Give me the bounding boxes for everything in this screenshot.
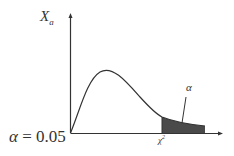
significance-level: α = 0.05	[9, 127, 66, 147]
chi-superscript: 2	[162, 134, 165, 140]
significance-value: 0.05	[36, 127, 66, 146]
significance-equals: =	[18, 127, 36, 146]
critical-value-label: χ2	[158, 134, 165, 145]
y-axis-label-subscript: a	[49, 17, 54, 27]
tail-alpha-label: α	[186, 81, 192, 93]
significance-symbol: α	[9, 127, 18, 146]
y-axis-label: Xa	[40, 8, 54, 27]
y-axis-arrowhead	[69, 13, 73, 18]
y-axis-label-main: X	[40, 8, 49, 24]
x-axis-arrowhead	[218, 132, 223, 136]
alpha-pointer	[182, 97, 186, 123]
